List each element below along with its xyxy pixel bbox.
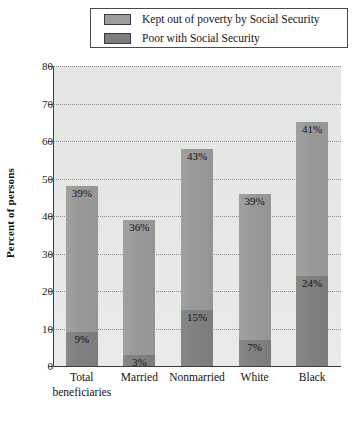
x-axis-labels: TotalbeneficiariesMarriedNonmarriedWhite… <box>53 370 341 410</box>
bar-segment-poor-with-social-security[interactable]: 7% <box>239 340 271 366</box>
y-axis-tick-label: 30 <box>5 248 53 260</box>
light-gray-swatch-icon <box>104 14 131 25</box>
x-axis-category-label-line2: beneficiaries <box>39 385 125 400</box>
bar-segment-poor-with-social-security[interactable]: 24% <box>296 276 328 366</box>
bar-segment-kept-out-of-poverty[interactable]: 36% <box>123 220 155 355</box>
bar-value-label: 39% <box>66 187 98 200</box>
x-axis-category-label: Black <box>269 370 355 385</box>
legend-entry-poor-with-social-security: Poor with Social Security <box>91 29 347 48</box>
y-axis-tick-label: 70 <box>5 98 53 110</box>
bar-group[interactable]: 43%15% <box>181 149 213 367</box>
chart-legend: Kept out of poverty by Social Security P… <box>90 8 348 48</box>
bar-value-label: 24% <box>296 277 328 290</box>
y-axis-tick-label: 40 <box>5 210 53 222</box>
x-axis-line <box>53 366 341 367</box>
bar-segment-kept-out-of-poverty[interactable]: 39% <box>66 186 98 332</box>
bar-value-label: 43% <box>181 150 213 163</box>
x-axis-category-label-line1: Black <box>299 371 326 383</box>
plot-area: 39%9%36%3%43%15%39%7%41%24% <box>53 66 341 367</box>
bar-value-label: 7% <box>239 341 271 354</box>
bar-segment-kept-out-of-poverty[interactable]: 43% <box>181 149 213 310</box>
bar-segment-poor-with-social-security[interactable]: 9% <box>66 332 98 366</box>
y-axis-tick-label: 80 <box>5 60 53 72</box>
y-axis-tick-label: 50 <box>5 173 53 185</box>
bar-value-label: 41% <box>296 123 328 136</box>
gridline <box>53 104 341 105</box>
bar-segment-poor-with-social-security[interactable]: 15% <box>181 310 213 366</box>
bar-value-label: 9% <box>66 333 98 346</box>
y-axis-tick-label: 10 <box>5 323 53 335</box>
bar-value-label: 36% <box>123 221 155 234</box>
y-axis-tick-label: 20 <box>5 285 53 297</box>
bar-value-label: 15% <box>181 311 213 324</box>
y-axis-tick-label: 60 <box>5 135 53 147</box>
x-axis-category-label-line1: White <box>241 371 269 383</box>
legend-entry-label: Kept out of poverty by Social Security <box>142 14 320 26</box>
bar-group[interactable]: 39%9% <box>66 186 98 366</box>
bar-value-label: 3% <box>123 356 155 369</box>
bar-group[interactable]: 39%7% <box>239 194 271 367</box>
bar-value-label: 39% <box>239 195 271 208</box>
bar-group[interactable]: 36%3% <box>123 220 155 366</box>
x-axis-category-label-line1: Total <box>70 371 93 383</box>
bar-group[interactable]: 41%24% <box>296 122 328 366</box>
bar-segment-poor-with-social-security[interactable]: 3% <box>123 355 155 366</box>
y-axis-ticks: 01020304050607080 <box>0 66 53 367</box>
gridline <box>53 66 341 67</box>
legend-entry-kept-out-of-poverty: Kept out of poverty by Social Security <box>91 10 347 29</box>
bar-segment-kept-out-of-poverty[interactable]: 41% <box>296 122 328 276</box>
dark-gray-swatch-icon <box>104 33 131 44</box>
bar-segment-kept-out-of-poverty[interactable]: 39% <box>239 194 271 340</box>
legend-entry-label: Poor with Social Security <box>142 33 260 45</box>
x-axis-category-label-line1: Married <box>121 371 158 383</box>
